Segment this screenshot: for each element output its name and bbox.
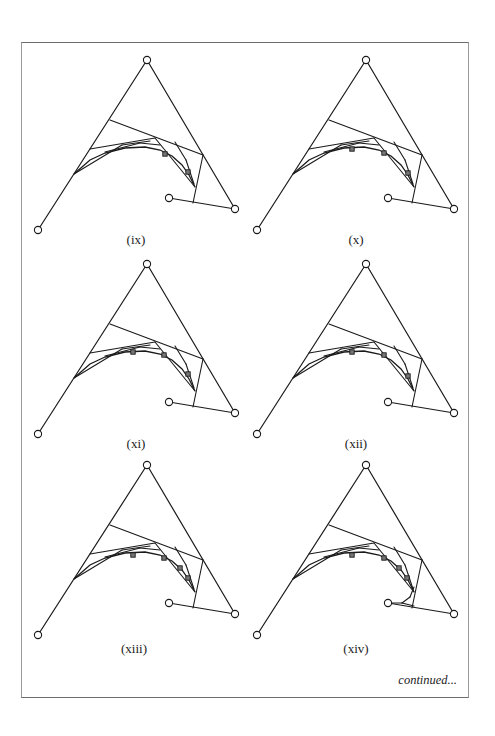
- subdivision-line: [359, 143, 379, 145]
- subdivision-line: [402, 597, 410, 603]
- control-polygon-edge: [366, 264, 454, 413]
- control-point-circle-icon: [450, 610, 457, 617]
- bezier-curve-approximation: [293, 552, 414, 592]
- subdivision-point-square-icon: [186, 372, 190, 376]
- control-point-circle-icon: [34, 430, 41, 437]
- panel-label-xiv: (xiv): [343, 641, 368, 657]
- panel-xi: [34, 260, 238, 437]
- control-polygon-edge: [366, 60, 454, 209]
- control-point-circle-icon: [450, 205, 457, 212]
- control-polygon-edge: [169, 402, 235, 413]
- subdivision-line: [155, 138, 195, 187]
- continued-note: continued...: [398, 673, 457, 688]
- panel-xiii: [34, 461, 238, 638]
- control-point-circle-icon: [384, 599, 391, 606]
- control-polygon-edge: [388, 603, 454, 614]
- control-point-circle-icon: [231, 610, 238, 617]
- control-polygon-edge: [147, 60, 235, 209]
- bezier-curve-approximation: [293, 147, 414, 187]
- panel-label-xiii: (xiii): [121, 641, 147, 657]
- subdivision-point-square-icon: [162, 353, 166, 357]
- control-point-circle-icon: [384, 398, 391, 405]
- subdivision-line: [175, 547, 186, 565]
- subdivision-point-square-icon: [350, 350, 354, 354]
- control-polygon-edge: [388, 402, 454, 413]
- control-polygon-edge: [147, 264, 235, 413]
- panel-label-x: (x): [348, 232, 363, 248]
- control-polygon-edge: [366, 465, 454, 614]
- subdivision-point-square-icon: [178, 566, 182, 570]
- subdivision-point-square-icon: [163, 152, 167, 156]
- control-point-circle-icon: [231, 409, 238, 416]
- subdivision-line: [193, 359, 203, 407]
- control-polygon-edge: [388, 198, 454, 209]
- control-point-circle-icon: [143, 260, 150, 267]
- control-point-circle-icon: [384, 194, 391, 201]
- subdivision-point-square-icon: [397, 566, 401, 570]
- bezier-subdivision-figure: [0, 0, 495, 736]
- subdivision-point-square-icon: [350, 147, 354, 151]
- subdivision-line: [359, 548, 379, 550]
- subdivision-point-square-icon: [382, 556, 386, 560]
- control-point-circle-icon: [362, 260, 369, 267]
- subdivision-line: [374, 138, 414, 187]
- control-point-circle-icon: [34, 226, 41, 233]
- subdivision-point-square-icon: [162, 556, 166, 560]
- subdivision-line: [412, 359, 422, 407]
- panel-ix: [34, 56, 238, 233]
- control-point-circle-icon: [253, 631, 260, 638]
- subdivision-point-square-icon: [131, 553, 135, 557]
- subdivision-line: [140, 347, 160, 349]
- subdivision-line: [140, 548, 160, 550]
- control-point-circle-icon: [143, 461, 150, 468]
- subdivision-line: [175, 142, 186, 160]
- subdivision-line: [155, 342, 195, 391]
- control-point-circle-icon: [165, 398, 172, 405]
- control-point-circle-icon: [362, 56, 369, 63]
- subdivision-point-square-icon: [406, 374, 410, 378]
- subdivision-point-square-icon: [405, 576, 409, 580]
- control-point-circle-icon: [143, 56, 150, 63]
- bezier-curve-approximation: [74, 351, 195, 391]
- control-point-circle-icon: [362, 461, 369, 468]
- bezier-curve-approximation: [293, 351, 414, 391]
- subdivision-point-square-icon: [382, 151, 386, 155]
- subdivision-point-square-icon: [406, 171, 410, 175]
- panel-label-xi: (xi): [127, 436, 146, 452]
- panel-xiv: [253, 461, 457, 638]
- subdivision-point-square-icon: [350, 553, 354, 557]
- control-point-circle-icon: [34, 631, 41, 638]
- subdivision-line: [394, 142, 405, 160]
- subdivision-point-square-icon: [186, 170, 190, 174]
- control-polygon-edge: [147, 465, 235, 614]
- subdivision-line: [394, 346, 405, 364]
- subdivision-line: [374, 342, 414, 391]
- panel-xii: [253, 260, 457, 437]
- control-point-circle-icon: [253, 226, 260, 233]
- subdivision-line: [412, 560, 422, 608]
- subdivision-line: [394, 547, 405, 565]
- control-point-circle-icon: [165, 194, 172, 201]
- control-polygon-edge: [169, 198, 235, 209]
- subdivision-line: [193, 155, 203, 203]
- subdivision-point-square-icon: [131, 350, 135, 354]
- bezier-curve-approximation: [74, 147, 195, 187]
- panel-label-xii: (xii): [345, 436, 367, 452]
- control-point-circle-icon: [253, 430, 260, 437]
- control-point-circle-icon: [231, 205, 238, 212]
- subdivision-line: [359, 347, 379, 349]
- subdivision-point-square-icon: [186, 576, 190, 580]
- subdivision-point-square-icon: [382, 353, 386, 357]
- subdivision-line: [374, 543, 414, 592]
- panel-label-ix: (ix): [127, 232, 146, 248]
- subdivision-line: [175, 346, 186, 364]
- control-point-circle-icon: [450, 409, 457, 416]
- subdivision-line: [155, 543, 195, 592]
- bezier-curve-approximation: [74, 552, 195, 592]
- panel-x: [253, 56, 457, 233]
- subdivision-line: [412, 155, 422, 203]
- control-polygon-edge: [169, 603, 235, 614]
- subdivision-line: [193, 560, 203, 608]
- subdivision-line: [140, 143, 160, 145]
- control-point-circle-icon: [165, 599, 172, 606]
